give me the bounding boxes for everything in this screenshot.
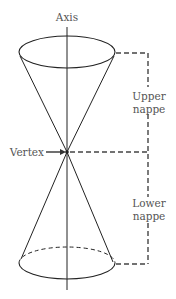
axis-label: Axis [55,11,78,23]
vertex-arrow-head [60,149,66,155]
lower-left-generator [21,152,67,259]
upper-right-generator [67,56,114,152]
upper-nappe-label-line1: Upper [132,90,167,102]
cone-diagram: Axis Vertex Upper nappe Lower nappe [0,0,176,299]
upper-nappe-label-line2: nappe [133,103,166,115]
nappe-bracket [70,53,148,264]
vertex-label: Vertex [9,146,44,158]
lower-nappe-label-line2: nappe [133,210,166,222]
lower-nappe-label-line1: Lower [132,197,166,209]
lower-right-generator [67,152,113,262]
upper-left-generator [20,56,67,152]
